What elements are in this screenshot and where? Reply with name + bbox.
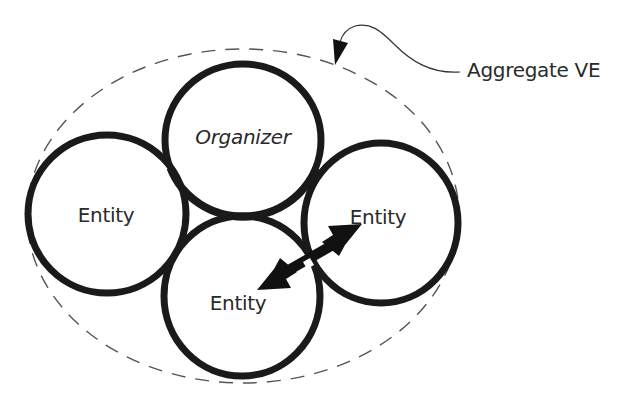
callout-connector	[340, 25, 460, 72]
aggregate-ve-label: Aggregate VE	[467, 58, 600, 82]
callout-arrowhead-icon	[333, 39, 348, 65]
entity-right-label: Entity	[350, 205, 407, 229]
entity-left-label: Entity	[78, 203, 135, 227]
entity-bottom-label: Entity	[210, 291, 267, 315]
organizer-label: Organizer	[195, 125, 290, 149]
aggregate-ve-diagram: Organizer Entity Entity Entity Aggregate…	[0, 0, 625, 396]
